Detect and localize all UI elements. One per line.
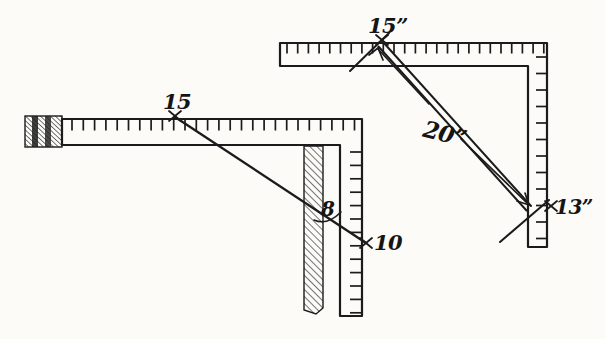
label-tongue-10: 10 xyxy=(374,230,403,255)
hatched-board-strip xyxy=(304,146,323,314)
label-blade-15in: 15” xyxy=(368,13,408,38)
dark-grain-bar xyxy=(32,116,38,147)
label-blade-15: 15 xyxy=(163,89,191,114)
framing-squares-diagram: 15 8 10 xyxy=(0,0,605,339)
left-framing-square-figure: 15 8 10 xyxy=(25,89,403,316)
label-board-8: 8 xyxy=(320,197,335,221)
figure-canvas: 15 8 10 xyxy=(0,0,605,339)
dark-grain-bar xyxy=(45,116,51,147)
label-tongue-13in: 13” xyxy=(555,195,593,219)
wall-end-block xyxy=(25,116,62,147)
label-diagonal-20in: 20” xyxy=(420,115,470,152)
